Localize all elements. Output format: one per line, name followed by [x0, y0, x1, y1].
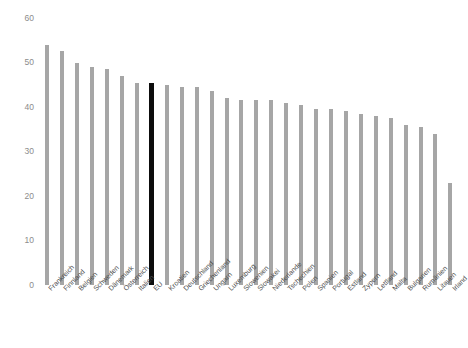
bar — [90, 67, 94, 285]
bar-slot — [338, 18, 353, 285]
plot-area — [40, 18, 458, 285]
bar-slot — [428, 18, 443, 285]
y-tick-label: 0 — [29, 281, 34, 290]
bar-slot — [85, 18, 100, 285]
bar — [404, 125, 408, 285]
bar-slot — [189, 18, 204, 285]
y-tick-label: 20 — [25, 192, 34, 201]
bar-slot — [443, 18, 458, 285]
bar — [299, 105, 303, 285]
y-tick-label: 40 — [25, 103, 34, 112]
bar — [165, 85, 169, 285]
y-tick-label: 60 — [25, 14, 34, 23]
bar — [344, 111, 348, 285]
bar-slot — [398, 18, 413, 285]
bar-slot — [130, 18, 145, 285]
bar-highlighted — [149, 83, 154, 285]
bar — [314, 109, 318, 285]
bar-slot — [219, 18, 234, 285]
bar-slot — [159, 18, 174, 285]
bar-slot — [204, 18, 219, 285]
bar-slot — [234, 18, 249, 285]
bar — [105, 69, 109, 285]
bar-slot — [279, 18, 294, 285]
bar — [254, 100, 258, 285]
bar — [45, 45, 49, 285]
bar-slot — [383, 18, 398, 285]
bar — [135, 83, 139, 285]
y-tick-label: 30 — [25, 147, 34, 156]
bar — [239, 100, 243, 285]
bar-slot — [144, 18, 159, 285]
bar — [180, 87, 184, 285]
bar — [359, 114, 363, 285]
bar-slot — [115, 18, 130, 285]
y-tick-label: 10 — [25, 236, 34, 245]
bar-slot — [55, 18, 70, 285]
bar — [75, 63, 79, 286]
y-axis: 6050403020100 — [0, 0, 40, 300]
bar — [389, 118, 393, 285]
bar-slot — [100, 18, 115, 285]
bar — [120, 76, 124, 285]
bar-series — [40, 18, 458, 285]
bar-slot — [324, 18, 339, 285]
bar — [195, 87, 199, 285]
bar — [419, 127, 423, 285]
bar-slot — [294, 18, 309, 285]
bar — [210, 91, 214, 285]
bar-slot — [309, 18, 324, 285]
bar — [374, 116, 378, 285]
bar-slot — [413, 18, 428, 285]
bar-slot — [40, 18, 55, 285]
x-axis: FrankreichFinnlandBelgienSchwedenDänemar… — [40, 287, 458, 347]
bar-slot — [368, 18, 383, 285]
bar-slot — [174, 18, 189, 285]
bar — [60, 51, 64, 285]
bar — [269, 100, 273, 285]
bar-slot — [353, 18, 368, 285]
bar-slot — [249, 18, 264, 285]
bar-slot — [70, 18, 85, 285]
y-tick-label: 50 — [25, 58, 34, 67]
bar — [329, 109, 333, 285]
bar-slot — [264, 18, 279, 285]
bar — [284, 103, 288, 285]
bar — [433, 134, 437, 285]
